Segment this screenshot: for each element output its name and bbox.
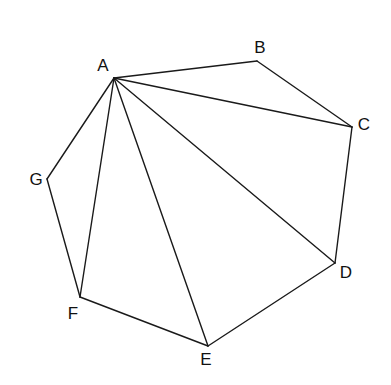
vertex-label-d: D [340, 263, 352, 282]
edge-ab [114, 61, 257, 78]
vertex-label-a: A [97, 56, 109, 75]
heptagon-diagram: ABCDEFG [0, 0, 391, 385]
edge-ef [80, 297, 208, 346]
edge-cd [335, 127, 352, 263]
vertex-label-c: C [358, 115, 370, 134]
edge-ga [47, 78, 114, 179]
edge-de [208, 263, 335, 346]
vertex-label-b: B [254, 38, 265, 57]
vertex-label-g: G [29, 170, 42, 189]
polygon-edges [47, 61, 352, 346]
diagonals-from-a [80, 78, 352, 346]
diagonal-af [80, 78, 114, 297]
vertex-label-f: F [68, 304, 78, 323]
vertex-labels: ABCDEFG [29, 38, 370, 369]
edge-fg [47, 179, 80, 297]
vertex-label-e: E [200, 350, 211, 369]
